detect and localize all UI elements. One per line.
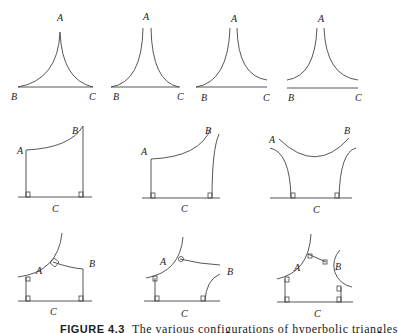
side-label-c: C [314,308,321,319]
vertex-label-a: A [35,265,43,276]
side-label-c: C [52,203,59,214]
quad-r2-3: A B C [268,125,356,215]
triangle-r1-4: A B C [287,13,362,103]
vertex-label-a: A [56,12,64,23]
side-label-c: C [181,203,188,214]
side-label-c: C [181,308,188,319]
vertex-label-b: B [344,125,350,136]
vertex-label-b: B [205,125,211,136]
vertex-label-b: B [72,125,78,136]
vertex-label-c: C [355,92,362,103]
quad-r3-1: A B C [18,233,95,317]
vertex-label-c: C [263,92,270,103]
triangle-r1-2: A B C [111,11,184,102]
vertex-label-c: C [177,91,184,102]
caption-text: The various configurations of hyperbolic… [132,322,398,333]
side-label-c: C [50,306,57,317]
vertex-label-b: B [227,266,233,277]
caption-label: FIGURE 4.3 [60,323,125,333]
quad-r3-3: A B C [277,234,353,319]
vertex-label-a: A [159,256,167,267]
vertex-label-a: A [268,134,276,145]
quad-r2-1: A B C [16,125,92,214]
triangle-r1-3: A B C [196,13,270,103]
vertex-label-b: B [201,92,207,103]
vertex-label-a: A [230,13,238,24]
vertex-label-b: B [335,261,341,272]
vertex-label-b: B [11,91,17,102]
vertex-label-c: C [89,91,96,102]
vertex-label-a: A [293,262,301,273]
vertex-label-b: B [113,91,119,102]
vertex-label-a: A [142,11,150,22]
vertex-label-a: A [140,146,148,157]
quad-r2-2: A B C [140,125,220,214]
vertex-label-b: B [89,258,95,269]
quad-r3-2: A B C [144,237,233,319]
vertex-label-a: A [317,13,325,24]
vertex-label-b: B [288,92,294,103]
figure-caption: FIGURE 4.3 The various configurations of… [60,322,398,333]
triangle-r1-1: A B C [11,12,96,102]
side-label-c: C [313,204,320,215]
vertex-label-a: A [16,145,24,156]
